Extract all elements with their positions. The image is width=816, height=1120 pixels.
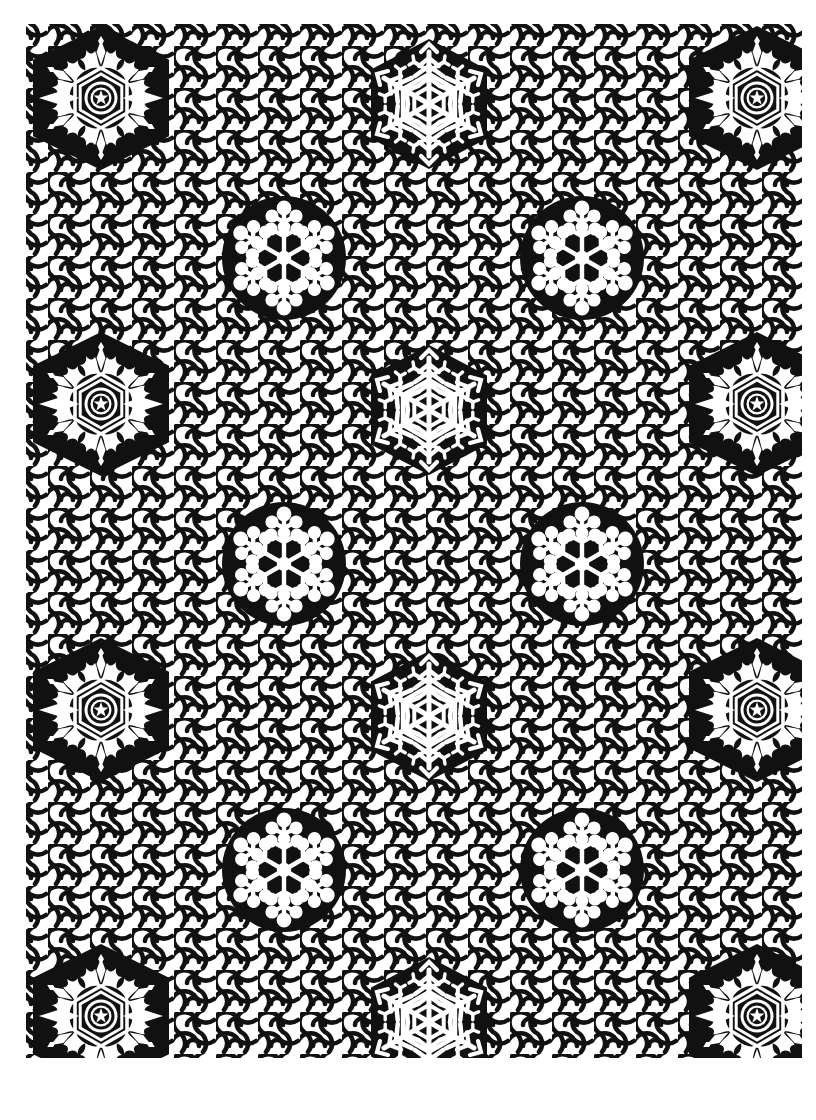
medallion-hexagon-ornate (33, 26, 169, 170)
medallion-hexagon-dendrite (367, 651, 491, 781)
medallion-circle-dotflake (520, 502, 644, 626)
medallion-hexagon-ornate (689, 26, 802, 170)
medallion-hexagon-ornate (33, 638, 169, 782)
medallion-circle-dotflake (222, 808, 346, 932)
medallion-hexagon-ornate (689, 944, 802, 1058)
medallion-hexagon-ornate (33, 944, 169, 1058)
artwork-frame (26, 24, 802, 1058)
medallion-hexagon-ornate (33, 332, 169, 476)
medallion-circle-dotflake (222, 502, 346, 626)
pattern-page: Snowflake Tessellation Pattern pinwheel … (0, 0, 816, 1120)
medallion-circle-dotflake (520, 808, 644, 932)
medallion-hexagon-ornate (689, 332, 802, 476)
medallion-hexagon-ornate (689, 638, 802, 782)
medallion-hexagon-dendrite (367, 39, 491, 169)
medallion-circle-dotflake (222, 196, 346, 320)
medallion-hexagon-dendrite (367, 345, 491, 475)
medallion-circle-dotflake (520, 196, 644, 320)
medallion-layer (26, 24, 802, 1058)
medallion-hexagon-dendrite (367, 957, 491, 1058)
